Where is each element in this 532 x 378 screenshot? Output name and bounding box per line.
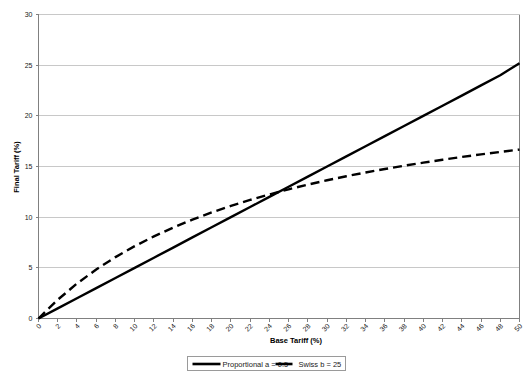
chart-legend: Proportional a = 0.5Swiss b = 25 [188, 357, 346, 371]
y-tick-label: 20 [25, 112, 33, 119]
y-tick-label: 15 [25, 163, 33, 170]
y-tick-label: 10 [25, 214, 33, 221]
tariff-line-chart: 051015202530 024681012141618202224262830… [0, 0, 532, 378]
chart-canvas: 051015202530 024681012141618202224262830… [0, 0, 532, 378]
x-axis-title: Base Tariff (%) [270, 336, 322, 345]
y-tick-label: 30 [25, 11, 33, 18]
y-tick-label: 0 [29, 315, 33, 322]
legend-label-2: Swiss b = 25 [299, 360, 342, 369]
y-axis-title: Final Tariff (%) [12, 141, 21, 193]
y-tick-label: 5 [29, 264, 33, 271]
chart-background [0, 0, 532, 378]
y-tick-label: 25 [25, 62, 33, 69]
